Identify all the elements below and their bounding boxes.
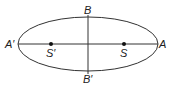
label-focus-right: S bbox=[120, 47, 128, 59]
label-top-vertex: B bbox=[84, 4, 91, 16]
label-focus-left: S′ bbox=[46, 47, 56, 59]
label-right-vertex: A bbox=[158, 38, 166, 50]
ellipse-diagram: B B′ A′ A S′ S bbox=[0, 0, 171, 86]
focus-right-point bbox=[122, 42, 126, 46]
focus-left-point bbox=[49, 42, 53, 46]
label-bottom-vertex: B′ bbox=[83, 73, 93, 85]
label-left-vertex: A′ bbox=[4, 38, 15, 50]
